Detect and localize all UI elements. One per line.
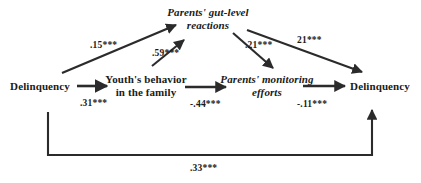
node-label-line1: Parents' monitoring — [219, 73, 315, 86]
node-delinquency-t2: Delinquency — [342, 80, 418, 93]
node-parents-gut-level-reactions: Parents' gut-level reactions — [148, 6, 268, 31]
path-diagram: Parents' gut-level reactions Delinquency… — [0, 0, 421, 183]
coefficient-delinquency1-to-delinquency2: .33*** — [190, 163, 217, 173]
coefficient-gutlevel-to-monitoring: .21*** — [245, 40, 272, 50]
node-parents-monitoring-efforts: Parents' monitoring efforts — [219, 73, 315, 98]
node-label-line2: in the family — [104, 86, 188, 99]
node-label-line2: reactions — [148, 19, 268, 32]
coefficient-delinquency1-to-gutlevel: .15*** — [90, 40, 117, 50]
node-label-line2: efforts — [219, 86, 315, 99]
edge-delinquency1-to-delinquency2-bottom — [48, 110, 372, 155]
node-label-line1: Delinquency — [342, 80, 418, 93]
node-delinquency-t1: Delinquency — [2, 80, 78, 93]
node-youths-behavior-in-the-family: Youth's behavior in the family — [104, 73, 188, 98]
node-label-line1: Youth's behavior — [104, 73, 188, 86]
coefficient-monitoring-to-delinquency2: -.11*** — [297, 99, 327, 109]
node-label-line1: Parents' gut-level — [148, 6, 268, 19]
coefficient-gutlevel-to-delinquency2: 21*** — [297, 35, 322, 45]
coefficient-youthbehavior-to-monitoring: -.44*** — [190, 99, 221, 109]
coefficient-delinquency1-to-youthbehavior: .31*** — [80, 98, 107, 108]
node-label-line1: Delinquency — [2, 80, 78, 93]
coefficient-youthbehavior-to-gutlevel: .59*** — [152, 48, 179, 58]
